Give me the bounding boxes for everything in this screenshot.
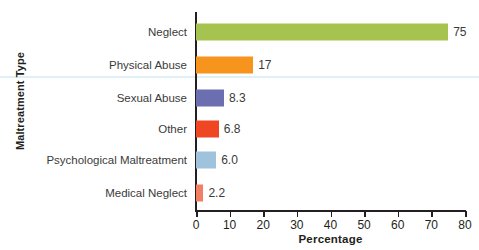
x-tick-label: 80: [458, 218, 471, 232]
x-tick-label: 0: [193, 218, 200, 232]
x-tick: [263, 211, 265, 217]
bar: [196, 89, 224, 106]
category-label: Psychological Maltreatment: [46, 154, 187, 166]
x-tick: [230, 211, 232, 217]
bar: [196, 151, 216, 168]
bar: [196, 56, 253, 73]
category-label: Other: [158, 123, 187, 135]
x-tick-label: 60: [391, 218, 404, 232]
bar-row: Neglect75: [196, 16, 465, 47]
x-tick: [364, 211, 366, 217]
bar-row: Other6.8: [196, 113, 465, 144]
category-label: Sexual Abuse: [117, 92, 187, 104]
x-tick: [331, 211, 333, 217]
x-tick: [297, 211, 299, 217]
x-tick-label: 20: [257, 218, 270, 232]
bar: [196, 23, 448, 40]
bar-row: Psychological Maltreatment6.0: [196, 144, 465, 175]
bar-value-label: 6.0: [221, 153, 238, 167]
plot-area: Neglect75Physical Abuse17Sexual Abuse8.3…: [196, 12, 465, 211]
bar-row: Medical Neglect2.2: [196, 177, 465, 208]
bar-value-label: 17: [258, 58, 271, 72]
x-tick: [465, 211, 467, 217]
bar-value-label: 2.2: [208, 186, 225, 200]
bar-value-label: 75: [453, 25, 466, 39]
category-label: Neglect: [148, 26, 187, 38]
x-tick-label: 40: [324, 218, 337, 232]
x-tick: [398, 211, 400, 217]
x-tick: [431, 211, 433, 217]
bar: [196, 184, 203, 201]
bar-row: Sexual Abuse8.3: [196, 82, 465, 113]
bar-value-label: 8.3: [229, 91, 246, 105]
category-label: Physical Abuse: [109, 59, 187, 71]
bar: [196, 120, 219, 137]
bar-chart: Maltreatment Type Neglect75Physical Abus…: [0, 0, 479, 250]
x-tick-label: 70: [425, 218, 438, 232]
category-label: Medical Neglect: [105, 187, 187, 199]
bar-row: Physical Abuse17: [196, 49, 465, 80]
x-tick-label: 30: [290, 218, 303, 232]
y-axis-title: Maltreatment Type: [14, 26, 26, 176]
x-tick-label: 10: [223, 218, 236, 232]
x-tick: [196, 211, 198, 217]
bar-value-label: 6.8: [224, 122, 241, 136]
x-axis-title: Percentage: [195, 233, 466, 245]
x-tick-label: 50: [357, 218, 370, 232]
